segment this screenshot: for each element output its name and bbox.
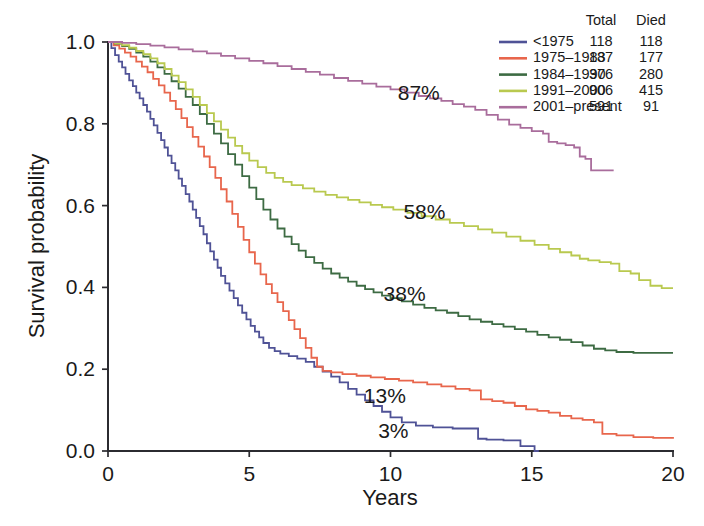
x-tick-label: 10 bbox=[379, 462, 402, 485]
x-tick-label: 0 bbox=[102, 462, 114, 485]
legend-total-2: 187 bbox=[589, 49, 613, 65]
legend: Total Died <19751181181975–1983187177198… bbox=[499, 12, 666, 114]
legend-died-3: 280 bbox=[639, 66, 663, 82]
legend-label-1: <1975 bbox=[533, 33, 574, 49]
legend-header-died: Died bbox=[636, 12, 666, 28]
legend-total-4: 906 bbox=[589, 82, 613, 98]
annotation-13pct: 13% bbox=[364, 384, 406, 407]
y-tick-label: 0.2 bbox=[66, 357, 95, 380]
legend-row: <1975118118 bbox=[499, 33, 663, 49]
x-axis-ticks: 05101520 bbox=[102, 451, 685, 485]
y-tick-label: 0.6 bbox=[66, 194, 95, 217]
x-tick-label: 15 bbox=[520, 462, 543, 485]
x-axis-title: Years bbox=[362, 485, 417, 510]
annotation-87pct: 87% bbox=[398, 81, 440, 104]
y-axis-ticks: 0.00.20.40.60.81.0 bbox=[66, 30, 108, 462]
annotation-3pct: 3% bbox=[378, 419, 408, 442]
annotation-38pct: 38% bbox=[384, 282, 426, 305]
y-tick-label: 0.4 bbox=[66, 275, 96, 298]
legend-rows: <19751181181975–19831871771984–199037628… bbox=[499, 33, 663, 114]
legend-died-2: 177 bbox=[639, 49, 663, 65]
legend-row: 1984–1990376280 bbox=[499, 66, 663, 82]
y-tick-label: 0.8 bbox=[66, 112, 95, 135]
legend-row: 2001–present59191 bbox=[499, 98, 659, 114]
legend-total-5: 591 bbox=[589, 98, 613, 114]
annotation-58pct: 58% bbox=[403, 200, 445, 223]
legend-total-3: 376 bbox=[589, 66, 613, 82]
legend-row: 1991–2000906415 bbox=[499, 82, 663, 98]
x-tick-label: 20 bbox=[661, 462, 684, 485]
legend-total-1: 118 bbox=[589, 33, 612, 49]
legend-died-5: 91 bbox=[643, 98, 659, 114]
y-tick-label: 0.0 bbox=[66, 439, 95, 462]
y-axis-title: Survival probability bbox=[24, 154, 49, 339]
annotation-group: 87%58%38%13%3% bbox=[364, 81, 446, 442]
y-tick-label: 1.0 bbox=[66, 30, 95, 53]
x-tick-label: 5 bbox=[243, 462, 255, 485]
survival-curve-figure: 0.00.20.40.60.81.0 05101520 Survival pro… bbox=[0, 0, 704, 526]
legend-header-total: Total bbox=[586, 12, 617, 28]
legend-row: 1975–1983187177 bbox=[499, 49, 663, 65]
kaplan-meier-plot: 0.00.20.40.60.81.0 05101520 Survival pro… bbox=[0, 0, 704, 526]
legend-died-1: 118 bbox=[639, 33, 662, 49]
legend-died-4: 415 bbox=[639, 82, 663, 98]
